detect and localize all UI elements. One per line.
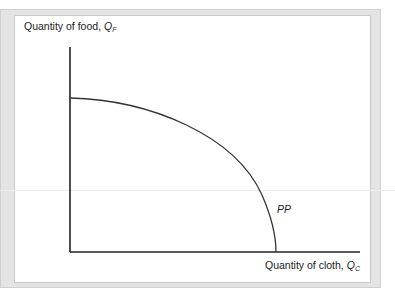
x-axis-label: Quantity of cloth, QC — [265, 259, 360, 272]
y-axis-label: Quantity of food, QF — [24, 20, 116, 33]
y-axis-symbol: Q — [104, 20, 112, 32]
x-axis-label-text: Quantity of cloth, — [265, 259, 347, 271]
y-axis-subscript: F — [112, 26, 116, 33]
y-axis-label-text: Quantity of food, — [24, 20, 104, 32]
x-axis-symbol: Q — [347, 259, 355, 271]
ppf-diagram — [0, 0, 395, 294]
curve-label: PP — [277, 203, 291, 215]
x-axis-subscript: C — [355, 265, 360, 272]
ppf-curve — [70, 98, 276, 252]
